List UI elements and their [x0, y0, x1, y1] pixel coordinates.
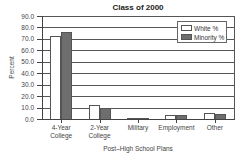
y-tick-mark [37, 73, 42, 74]
legend-label-minority: Minority % [194, 34, 224, 41]
legend-item-white: White % [181, 24, 218, 32]
legend: White % Minority % [177, 21, 227, 43]
y-tick-label: 10.0 [2, 104, 34, 111]
x-category-label: Other [195, 124, 235, 132]
legend-swatch-minority [181, 34, 192, 40]
bar-chart: Class of 2000 0.010.020.030.040.050.060.… [0, 0, 241, 164]
y-tick-label: 20.0 [2, 93, 34, 100]
chart-title: Class of 2000 [42, 3, 234, 12]
x-category-label: Employment [156, 124, 196, 132]
x-tick-mark [61, 120, 62, 123]
bar-white [50, 36, 61, 120]
y-tick-mark [37, 96, 42, 97]
x-tick-mark [138, 120, 139, 123]
legend-label-white: White % [194, 25, 218, 32]
y-tick-mark [37, 85, 42, 86]
y-tick-mark [37, 108, 42, 109]
y-tick-label: 0.0 [2, 116, 34, 123]
y-tick-label: 80.0 [2, 24, 34, 31]
y-tick-mark [37, 16, 42, 17]
y-tick-mark [37, 39, 42, 40]
y-tick-mark [37, 62, 42, 63]
y-tick-mark [37, 27, 42, 28]
legend-item-minority: Minority % [181, 33, 224, 41]
x-category-label: 4-YearCollege [41, 124, 81, 140]
y-tick-mark [37, 119, 42, 120]
x-category-label: 2-YearCollege [80, 124, 120, 140]
y-tick-label: 70.0 [2, 35, 34, 42]
bar-white [89, 105, 100, 120]
y-tick-label: 90.0 [2, 13, 34, 20]
bar-minority [61, 32, 72, 120]
legend-swatch-white [181, 25, 192, 31]
x-axis-title: Post–High School Plans [42, 145, 234, 152]
y-axis-title: Percent [8, 53, 15, 83]
x-tick-mark [215, 120, 216, 123]
y-axis-line [42, 16, 43, 120]
x-tick-mark [100, 120, 101, 123]
y-tick-mark [37, 50, 42, 51]
x-tick-mark [176, 120, 177, 123]
x-category-label: Military [118, 124, 158, 132]
